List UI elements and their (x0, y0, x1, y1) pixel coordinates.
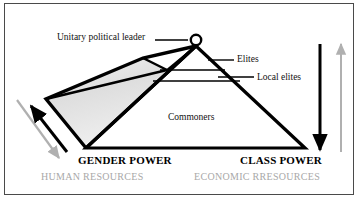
unitary-leader-circle-icon (191, 35, 201, 45)
axis-sublabel-economic-resources: ECONOMIC RRESOURCES (194, 172, 320, 182)
axis-label-class-power: CLASS POWER (240, 155, 322, 166)
label-elites: Elites (237, 55, 259, 65)
label-local-elites: Local elites (257, 73, 301, 83)
gender-face-shading (46, 58, 167, 148)
figure-container: Unitary political leader Elites Local el… (0, 0, 359, 201)
axis-sublabel-human-resources: HUMAN RESOURCES (41, 172, 144, 182)
axis-label-gender-power: GENDER POWER (78, 155, 172, 166)
label-unitary-political-leader: Unitary political leader (57, 33, 145, 43)
label-commoners: Commoners (168, 113, 214, 123)
